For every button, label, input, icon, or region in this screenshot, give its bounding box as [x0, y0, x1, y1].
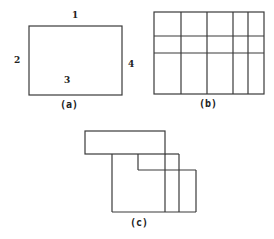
- edge-label-left: 2: [14, 55, 20, 65]
- edge-label-top: 1: [72, 10, 78, 20]
- diagram-canvas: 1 2 3 4 (a) (b) (c): [0, 0, 274, 239]
- edge-label-bottom: 3: [64, 75, 70, 85]
- caption-c: (c): [130, 217, 148, 228]
- top-rectangle: [85, 131, 165, 154]
- figure-b: (b): [154, 12, 264, 109]
- caption-a: (a): [60, 99, 78, 110]
- rectangle-a: [29, 26, 122, 95]
- figure-a: 1 2 3 4 (a): [14, 10, 134, 110]
- figure-c: (c): [85, 131, 196, 228]
- edge-label-right: 4: [128, 59, 134, 69]
- caption-b: (b): [199, 98, 217, 109]
